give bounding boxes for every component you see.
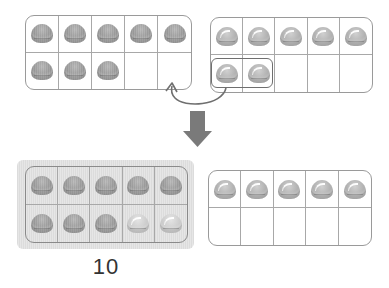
curved-arrow-icon — [166, 83, 226, 104]
down-arrow-icon — [183, 111, 212, 147]
arrows-layer — [0, 0, 389, 288]
result-label: 10 — [88, 254, 124, 280]
